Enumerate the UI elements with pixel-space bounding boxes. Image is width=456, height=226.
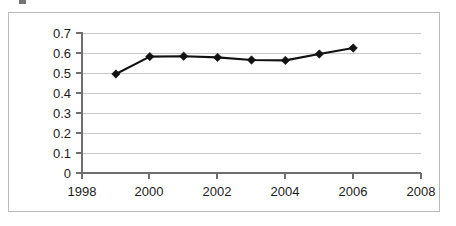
data-point-marker: [315, 50, 323, 58]
x-tick-label: 2006: [339, 184, 368, 199]
y-tick-label: 0.4: [53, 86, 71, 101]
y-tick-label: 0.2: [53, 126, 71, 141]
y-tick-label: 0.5: [53, 66, 71, 81]
gridlines: [82, 33, 421, 153]
scan-artifact-mark: [19, 0, 26, 4]
data-point-marker: [349, 44, 357, 52]
y-tick-label: 0.6: [53, 46, 71, 61]
data-point-marker: [213, 53, 221, 61]
x-tick-label: 2004: [271, 184, 300, 199]
data-point-marker: [146, 52, 154, 60]
chart-plot-area: 0.7 0.6 0.5 0.4 0.3 0.2 0.1 0: [9, 13, 441, 213]
y-axis-tick-labels: 0.7 0.6 0.5 0.4 0.3 0.2 0.1 0: [53, 26, 71, 181]
x-tick-label: 2000: [135, 184, 164, 199]
y-tick-label: 0: [64, 166, 71, 181]
y-axis: [76, 32, 82, 174]
y-tick-label: 0.3: [53, 106, 71, 121]
x-axis: [82, 173, 421, 179]
x-axis-tick-labels: 1998 2000 2002 2004 2006 2008: [68, 184, 436, 199]
y-tick-label: 0.1: [53, 146, 71, 161]
data-point-marker: [247, 56, 255, 64]
x-tick-label: 2002: [203, 184, 232, 199]
x-tick-label: 2008: [407, 184, 436, 199]
y-tick-label: 0.7: [53, 26, 71, 41]
x-tick-label: 1998: [68, 184, 97, 199]
line-chart: 0.7 0.6 0.5 0.4 0.3 0.2 0.1 0: [9, 13, 441, 213]
chart-frame: 0.7 0.6 0.5 0.4 0.3 0.2 0.1 0: [8, 12, 440, 212]
data-point-marker: [112, 70, 120, 78]
data-point-marker: [281, 56, 289, 64]
